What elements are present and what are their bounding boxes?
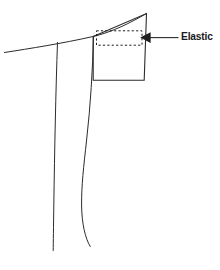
elastic-callout-label: Elastic	[181, 31, 213, 42]
left-seam-line	[53, 43, 57, 251]
right-seam-line	[82, 37, 94, 247]
elastic-casing-dashed-rect	[97, 31, 143, 45]
technical-illustration: Elastic	[0, 0, 220, 270]
waistband-panel-outline	[93, 14, 146, 81]
garment-top-edge-line	[5, 14, 147, 53]
